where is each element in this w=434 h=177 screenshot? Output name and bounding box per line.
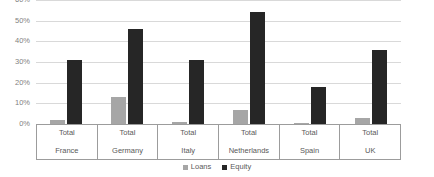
bar-group: [218, 0, 279, 124]
category-country-label: Germany: [98, 142, 158, 160]
bar-equity-italy[interactable]: [189, 60, 204, 124]
legend-label: Loans: [191, 163, 211, 171]
category-cell: TotalSpain: [280, 124, 341, 159]
legend-label: Equity: [230, 163, 251, 171]
category-country-label: France: [37, 142, 97, 160]
plot-area: [36, 0, 401, 124]
y-axis-tick-label: 10%: [15, 100, 30, 108]
bar-group: [279, 0, 340, 124]
y-axis-tick-label: 60%: [15, 0, 30, 4]
plot-wrapper: 60%50%40%30%20%10%0%: [0, 0, 434, 124]
category-cell: TotalItaly: [158, 124, 219, 159]
category-axis: TotalFranceTotalGermanyTotalItalyTotalNe…: [36, 124, 401, 160]
bar-loans-germany[interactable]: [111, 97, 126, 124]
y-axis-tick-label: 40%: [15, 38, 30, 46]
category-total-label: Total: [158, 124, 218, 142]
category-total-label: Total: [98, 124, 158, 142]
category-total-label: Total: [219, 124, 279, 142]
category-cell: TotalUK: [340, 124, 400, 159]
y-axis-tick-label: 0%: [19, 120, 30, 128]
y-axis-tick-label: 30%: [15, 58, 30, 66]
y-axis: 60%50%40%30%20%10%0%: [0, 0, 34, 124]
category-total-label: Total: [280, 124, 340, 142]
bar-equity-france[interactable]: [67, 60, 82, 124]
legend-swatch-icon: [222, 165, 227, 170]
category-country-label: Italy: [158, 142, 218, 160]
legend-item-loans[interactable]: Loans: [183, 163, 211, 171]
y-axis-tick-label: 20%: [15, 79, 30, 87]
category-cell: TotalGermany: [98, 124, 159, 159]
category-total-label: Total: [340, 124, 400, 142]
category-cell: TotalNetherlands: [219, 124, 280, 159]
bar-group: [97, 0, 158, 124]
bar-chart: 60%50%40%30%20%10%0% TotalFranceTotalGer…: [0, 0, 434, 177]
category-country-label: Spain: [280, 142, 340, 160]
bar-group: [36, 0, 97, 124]
bar-group: [158, 0, 219, 124]
bars-layer: [36, 0, 401, 124]
bar-equity-spain[interactable]: [311, 87, 326, 124]
bar-loans-netherlands[interactable]: [233, 110, 248, 124]
category-country-label: Netherlands: [219, 142, 279, 160]
category-country-label: UK: [340, 142, 400, 160]
legend-item-equity[interactable]: Equity: [222, 163, 251, 171]
bar-group: [340, 0, 401, 124]
y-axis-tick-label: 50%: [15, 17, 30, 25]
legend-swatch-icon: [183, 165, 188, 170]
bar-equity-germany[interactable]: [128, 29, 143, 124]
category-cell: TotalFrance: [37, 124, 98, 159]
chart-legend: LoansEquity: [0, 160, 434, 174]
bar-equity-netherlands[interactable]: [250, 12, 265, 124]
bar-equity-uk[interactable]: [372, 50, 387, 124]
category-total-label: Total: [37, 124, 97, 142]
